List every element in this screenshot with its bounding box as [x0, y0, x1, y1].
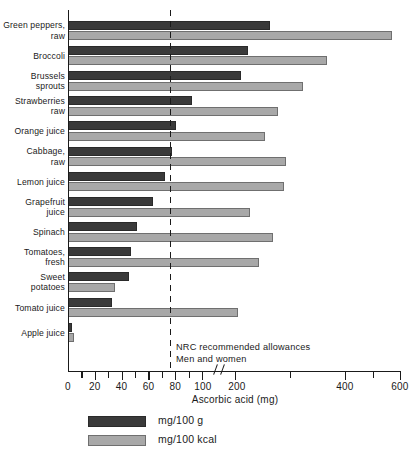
x-axis-tick-200	[235, 371, 236, 380]
bar-group	[68, 270, 416, 295]
bar-mg-per-100kcal	[68, 82, 303, 91]
chart-row: Brussels sprouts	[0, 68, 416, 93]
x-axis-tick-400	[345, 371, 346, 380]
bar-mg-per-100kcal	[68, 283, 115, 292]
chart-row: Grapefruit juice	[0, 194, 416, 219]
bar-mg-per-100kcal	[68, 208, 250, 217]
bar-group	[68, 194, 416, 219]
x-tick-label: 600	[391, 381, 408, 392]
x-tick-label: 20	[89, 381, 101, 392]
category-label: Broccoli	[0, 43, 65, 68]
category-label: Strawberries raw	[0, 94, 65, 119]
x-tick-label: 60	[143, 381, 155, 392]
x-axis-tick-70	[162, 371, 163, 378]
x-tick-label: 400	[336, 381, 353, 392]
bar-group	[68, 220, 416, 245]
bar-mg-per-100g	[68, 71, 241, 80]
bar-group	[68, 68, 416, 93]
bar-mg-per-100g	[68, 96, 192, 105]
bar-mg-per-100kcal	[68, 31, 392, 40]
chart-row: Broccoli	[0, 43, 416, 68]
bar-mg-per-100kcal	[68, 132, 265, 141]
bar-group	[68, 295, 416, 320]
bar-group	[68, 18, 416, 43]
chart-row: Spinach	[0, 220, 416, 245]
x-axis-tick-10	[81, 371, 82, 378]
bar-mg-per-100kcal	[68, 258, 259, 267]
chart-row: Lemon juice	[0, 169, 416, 194]
chart-row: Strawberries raw	[0, 94, 416, 119]
bar-group	[68, 43, 416, 68]
category-label: Spinach	[0, 220, 65, 245]
bar-mg-per-100kcal	[68, 182, 284, 191]
bar-mg-per-100g	[68, 21, 270, 30]
x-tick-label: 40	[116, 381, 128, 392]
bar-mg-per-100kcal	[68, 308, 238, 317]
bar-mg-per-100g	[68, 172, 165, 181]
bar-mg-per-100g	[68, 247, 131, 256]
x-axis-tick-60	[148, 371, 149, 380]
axis-break-mark	[220, 364, 225, 375]
chart-row: Orange juice	[0, 119, 416, 144]
chart-plot-area: Green peppers, raw Broccoli Brussels spr…	[0, 18, 416, 345]
x-axis-title: Ascorbic acid (mg)	[192, 394, 278, 405]
category-label: Grapefruit juice	[0, 194, 65, 219]
ascorbic-acid-bar-chart: Green peppers, raw Broccoli Brussels spr…	[0, 0, 416, 456]
x-axis-tick-600	[400, 371, 401, 380]
x-tick-label: 80	[169, 381, 181, 392]
category-label: Green peppers, raw	[0, 18, 65, 43]
bar-mg-per-100g	[68, 121, 176, 130]
category-label: Brussels sprouts	[0, 68, 65, 93]
category-label: Sweet potatoes	[0, 270, 65, 295]
x-axis-tick-500	[373, 371, 374, 378]
bar-mg-per-100kcal	[68, 56, 327, 65]
x-axis-tick-50	[135, 371, 136, 378]
axis-break-mark	[213, 364, 218, 375]
bar-mg-per-100g	[68, 222, 137, 231]
x-tick-label: 200	[228, 381, 245, 392]
y-axis-line	[68, 10, 69, 372]
bar-group	[68, 94, 416, 119]
legend-swatch-dark	[88, 416, 146, 427]
bar-mg-per-100g	[68, 147, 172, 156]
category-label: Lemon juice	[0, 169, 65, 194]
x-axis-tick-90	[189, 371, 190, 378]
category-label: Tomatoes, fresh	[0, 245, 65, 270]
bar-mg-per-100g	[68, 272, 129, 281]
rda-annotation-label: NRC recommended allowances Men and women	[176, 342, 310, 365]
bar-group	[68, 119, 416, 144]
legend-label: mg/100 kcal	[158, 433, 217, 445]
x-axis-tick-40	[122, 371, 123, 380]
x-tick-label: 0	[65, 381, 71, 392]
chart-row: Tomato juice	[0, 295, 416, 320]
bar-mg-per-100g	[68, 197, 153, 206]
chart-row: Tomatoes, fresh	[0, 245, 416, 270]
category-label: Apple juice	[0, 320, 65, 345]
x-axis-tick-30	[108, 371, 109, 378]
x-axis-tick-100	[202, 371, 203, 380]
x-tick-label: 100	[194, 381, 211, 392]
x-axis-tick-300	[290, 371, 291, 378]
category-label: Cabbage, raw	[0, 144, 65, 169]
x-axis-tick-80	[175, 371, 176, 380]
chart-row: Cabbage, raw	[0, 144, 416, 169]
bar-mg-per-100kcal	[68, 157, 286, 166]
category-label: Orange juice	[0, 119, 65, 144]
bar-mg-per-100kcal	[68, 107, 278, 116]
bar-group	[68, 169, 416, 194]
category-label: Tomato juice	[0, 295, 65, 320]
rda-reference-line	[170, 10, 171, 371]
bar-group	[68, 144, 416, 169]
chart-row: Sweet potatoes	[0, 270, 416, 295]
bar-group	[68, 245, 416, 270]
chart-row: Green peppers, raw	[0, 18, 416, 43]
x-axis-tick-20	[95, 371, 96, 380]
bar-mg-per-100g	[68, 298, 112, 307]
legend-label: mg/100 g	[158, 414, 203, 426]
bar-mg-per-100g	[68, 46, 248, 55]
legend-swatch-light	[88, 435, 146, 446]
